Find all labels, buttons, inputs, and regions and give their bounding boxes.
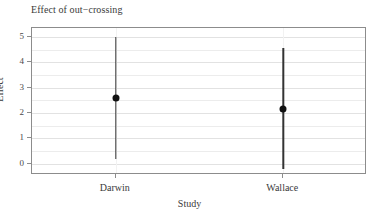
- x-tick-label-wallace: Wallace: [266, 182, 298, 193]
- gridline-minor: [32, 151, 365, 152]
- gridline-major: [32, 88, 365, 89]
- y-tick-label: 5: [20, 31, 25, 41]
- gridline-major: [32, 62, 365, 63]
- gridline-minor: [32, 50, 365, 51]
- y-tick-label: 1: [20, 132, 25, 142]
- y-tick-mark: [27, 61, 31, 62]
- x-tick-mark: [115, 174, 116, 178]
- gridline-minor: [32, 100, 365, 101]
- data-point: [112, 95, 119, 102]
- x-axis-label: Study: [0, 198, 379, 209]
- x-tick-label-darwin: Darwin: [100, 182, 130, 193]
- plot-panel: [31, 27, 366, 174]
- y-tick-label: 2: [20, 107, 25, 117]
- data-point: [280, 106, 287, 113]
- x-tick-mark: [282, 174, 283, 178]
- gridline-minor: [32, 75, 365, 76]
- y-tick-label: 3: [20, 82, 25, 92]
- gridline-major: [32, 164, 365, 165]
- gridline-major: [32, 113, 365, 114]
- y-tick-mark: [27, 163, 31, 164]
- gridline-major: [32, 138, 365, 139]
- gridline-major: [32, 37, 365, 38]
- chart-figure: Effect of out−crossing 012345DarwinWalla…: [0, 0, 379, 217]
- y-tick-label: 0: [20, 158, 25, 168]
- y-tick-label: 4: [20, 56, 25, 66]
- y-axis-label: Effect: [0, 77, 5, 101]
- y-tick-mark: [27, 36, 31, 37]
- y-tick-mark: [27, 87, 31, 88]
- y-tick-mark: [27, 112, 31, 113]
- chart-title: Effect of out−crossing: [31, 4, 123, 15]
- gridline-minor: [32, 126, 365, 127]
- y-tick-mark: [27, 137, 31, 138]
